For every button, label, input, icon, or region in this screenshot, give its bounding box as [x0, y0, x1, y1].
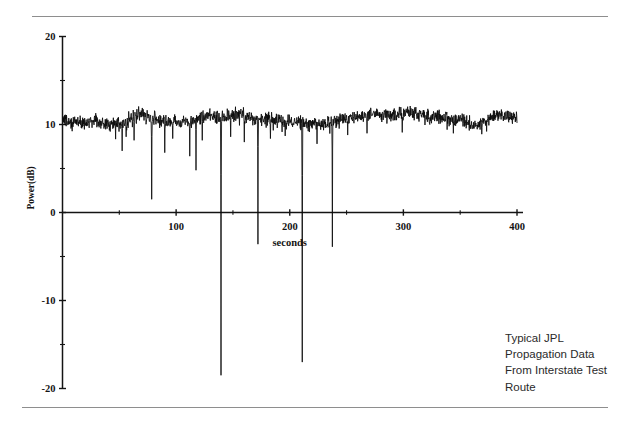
- y-axis-tick-label: 0: [50, 207, 55, 218]
- y-axis-label-text: Power(dB): [26, 167, 36, 210]
- caption-line-3: From Interstate Test: [505, 362, 627, 378]
- x-axis-tick-label: 400: [509, 221, 525, 232]
- axes-group: [63, 37, 524, 389]
- x-axis-label-text: seconds: [273, 237, 307, 248]
- caption-line-4: Route: [505, 379, 627, 395]
- x-axis-tick-label: 200: [282, 221, 298, 232]
- caption-line-1: Typical JPL: [505, 330, 627, 346]
- y-axis-tick-label: 20: [45, 31, 56, 42]
- y-axis-tick-label: -10: [42, 295, 56, 306]
- y-axis-tick-label: 10: [45, 119, 56, 130]
- figure-root: -20-1001020100200300400 seconds Power(dB…: [0, 0, 631, 425]
- x-axis-label: seconds: [273, 237, 307, 248]
- figure-caption: Typical JPL Propagation Data From Inters…: [505, 330, 627, 395]
- x-axis-tick-label: 100: [168, 221, 184, 232]
- y-axis-tick-label: -20: [42, 383, 56, 394]
- x-axis-tick-label: 300: [396, 221, 412, 232]
- y-axis-label: Power(dB): [24, 152, 38, 224]
- caption-line-2: Propagation Data: [505, 346, 627, 362]
